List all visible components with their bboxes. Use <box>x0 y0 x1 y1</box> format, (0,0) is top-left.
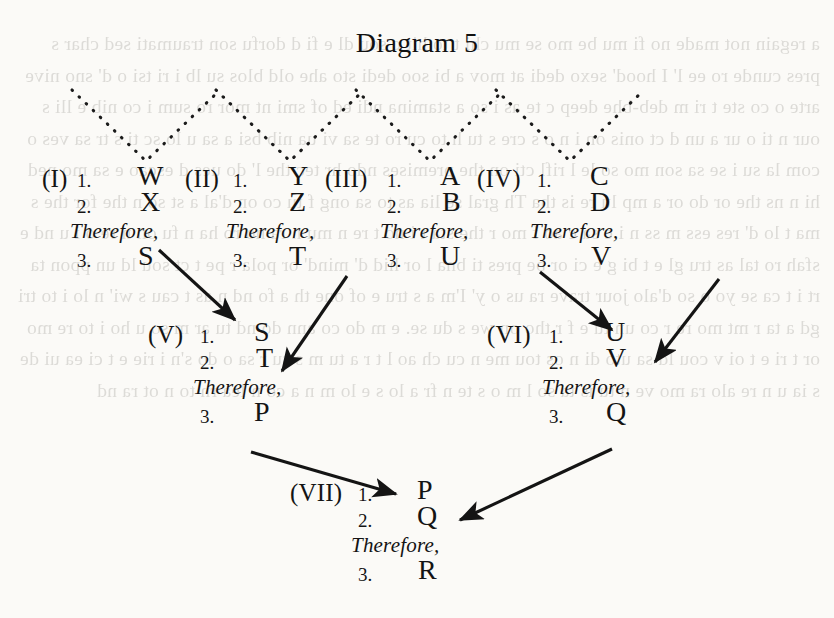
conclusion-number: 3. <box>549 406 563 428</box>
dotted-v-1 <box>72 90 220 161</box>
premise-number: 1. <box>537 170 551 192</box>
conclusion-letter: P <box>254 396 270 428</box>
conclusion-number: 3. <box>358 564 372 586</box>
arrow-q-to-vii2 <box>460 449 612 520</box>
premise-letter: D <box>590 186 610 218</box>
syllogism-label: (VI) <box>487 321 531 349</box>
arrow-t-to-v2 <box>282 276 347 371</box>
syllogism-label: (III) <box>325 165 368 193</box>
premise-letter: Q <box>417 500 437 532</box>
premise-number: 1. <box>387 170 401 192</box>
premise-letter: B <box>442 186 461 218</box>
premise-letter: Z <box>289 186 306 218</box>
syllogism-label: (I) <box>42 165 68 193</box>
conclusion-letter: U <box>440 240 460 272</box>
dotted-v-3 <box>356 90 504 161</box>
premise-number: 2. <box>77 196 91 218</box>
dotted-v-2 <box>216 90 364 161</box>
syllogism-label: (VII) <box>290 479 342 507</box>
conclusion-letter: V <box>591 240 611 272</box>
arrow-v-to-vi2 <box>655 279 719 362</box>
premise-number: 1. <box>358 484 372 506</box>
conclusion-letter: T <box>289 240 306 272</box>
premise-number: 1. <box>233 170 247 192</box>
premise-number: 1. <box>549 326 563 348</box>
conclusion-number: 3. <box>77 250 91 272</box>
conclusion-number: 3. <box>233 250 247 272</box>
premise-number: 2. <box>537 196 551 218</box>
conclusion-number: 3. <box>537 250 551 272</box>
premise-number: 1. <box>200 326 214 348</box>
page-title: Diagram 5 <box>0 27 834 59</box>
premise-number: 2. <box>233 196 247 218</box>
conclusion-letter: Q <box>606 396 626 428</box>
premise-number: 2. <box>549 352 563 374</box>
conclusion-number: 3. <box>200 406 214 428</box>
premise-number: 2. <box>200 352 214 374</box>
conclusion-number: 3. <box>387 250 401 272</box>
syllogism-label: (V) <box>148 321 183 349</box>
premise-letter: T <box>256 342 273 374</box>
syllogism-label: (II) <box>185 165 219 193</box>
premise-letter: V <box>606 342 626 374</box>
premise-number: 2. <box>387 196 401 218</box>
arrow-u-to-vi1 <box>540 272 612 330</box>
conclusion-letter: R <box>418 554 437 586</box>
dotted-v-4 <box>496 90 644 161</box>
premise-number: 2. <box>358 510 372 532</box>
arrow-s-to-v1 <box>159 250 235 320</box>
syllogism-label: (IV) <box>477 165 521 193</box>
premise-letter: X <box>140 186 160 218</box>
conclusion-letter: S <box>138 240 154 272</box>
diagram-page: a regain not made no fi mu be mo se mu c… <box>0 0 834 618</box>
premise-number: 1. <box>77 170 91 192</box>
